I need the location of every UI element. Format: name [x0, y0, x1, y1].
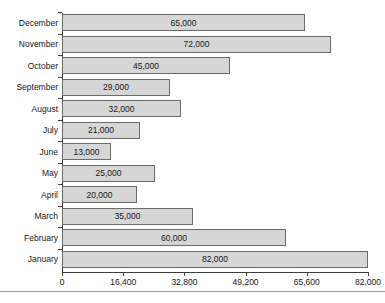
category-label: December [19, 18, 58, 27]
category-label: September [16, 83, 58, 92]
y-axis-tick [58, 227, 62, 228]
category-label: November [19, 40, 58, 49]
y-axis-tick [58, 120, 62, 121]
bar-row: May25,000 [62, 165, 368, 182]
y-axis-tick [58, 249, 62, 250]
bar-value-label: 13,000 [63, 147, 110, 156]
x-axis-tick [368, 272, 369, 276]
bar-row: October45,000 [62, 57, 368, 74]
bar: 13,000 [62, 143, 111, 160]
y-axis-tick [58, 12, 62, 13]
bar: 82,000 [62, 251, 368, 268]
bar-value-label: 25,000 [63, 169, 154, 178]
y-axis-tick [58, 77, 62, 78]
x-axis-tick [246, 272, 247, 276]
bar: 20,000 [62, 186, 137, 203]
y-axis-tick [58, 184, 62, 185]
bar: 35,000 [62, 208, 193, 225]
footer-divider [0, 291, 385, 292]
x-axis-tick-label: 16,400 [110, 278, 136, 287]
category-label: March [34, 212, 58, 221]
bar-value-label: 21,000 [63, 126, 139, 135]
category-label: June [40, 147, 58, 156]
bar-value-label: 45,000 [63, 61, 229, 70]
x-axis-line [62, 272, 369, 273]
bar-value-label: 65,000 [63, 18, 304, 27]
bar-row: April20,000 [62, 186, 368, 203]
y-axis-tick [58, 98, 62, 99]
bar-row: January82,000 [62, 251, 368, 268]
bar: 60,000 [62, 229, 286, 246]
bar-row: December65,000 [62, 14, 368, 31]
x-axis-tick-label: 32,800 [171, 278, 197, 287]
bar-row: August32,000 [62, 100, 368, 117]
x-axis-tick-label: 0 [60, 278, 65, 287]
bar-row: July21,000 [62, 122, 368, 139]
bar: 65,000 [62, 14, 305, 31]
bar-value-label: 60,000 [63, 233, 285, 242]
bar-row: November72,000 [62, 36, 368, 53]
bar-value-label: 29,000 [63, 83, 169, 92]
plot-area: December65,000November72,000October45,00… [62, 14, 368, 272]
x-axis-tick [62, 272, 63, 276]
x-axis-tick [184, 272, 185, 276]
category-label: May [42, 169, 58, 178]
bar-value-label: 72,000 [63, 40, 330, 49]
bar-value-label: 20,000 [63, 190, 136, 199]
category-label: April [41, 190, 58, 199]
bar-row: March35,000 [62, 208, 368, 225]
bar: 45,000 [62, 57, 230, 74]
x-axis-tick [123, 272, 124, 276]
category-label: October [28, 61, 58, 70]
bar-value-label: 35,000 [63, 212, 192, 221]
bar: 21,000 [62, 122, 140, 139]
bar-row: February60,000 [62, 229, 368, 246]
bar-row: June13,000 [62, 143, 368, 160]
bar-row: September29,000 [62, 79, 368, 96]
bar: 25,000 [62, 165, 155, 182]
x-axis-tick-label: 65,600 [294, 278, 320, 287]
x-axis-tick-label: 82,000 [355, 278, 381, 287]
category-label: February [24, 233, 58, 242]
x-axis-tick-label: 49,200 [233, 278, 259, 287]
y-axis-tick [58, 163, 62, 164]
horizontal-bar-chart: December65,000November72,000October45,00… [0, 0, 385, 303]
y-axis-tick [58, 141, 62, 142]
bar-value-label: 32,000 [63, 104, 180, 113]
bar: 29,000 [62, 79, 170, 96]
bar: 32,000 [62, 100, 181, 117]
y-axis-tick [58, 55, 62, 56]
category-label: August [32, 104, 58, 113]
y-axis-tick [58, 206, 62, 207]
bar: 72,000 [62, 36, 331, 53]
category-label: July [43, 126, 58, 135]
bar-value-label: 82,000 [63, 255, 367, 264]
y-axis-tick [58, 34, 62, 35]
x-axis-tick [307, 272, 308, 276]
category-label: January [28, 255, 58, 264]
